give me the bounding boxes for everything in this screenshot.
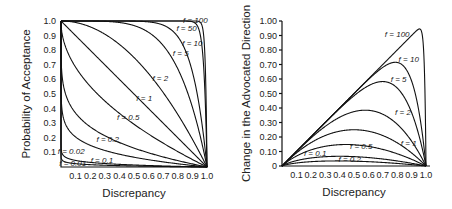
y-tick-label: 0.4	[43, 104, 56, 114]
curve-label: f = 100	[385, 30, 410, 39]
y-tick-label: 0.2	[43, 133, 56, 143]
x-tick-label: 0.4	[333, 170, 346, 180]
y-tick-label: 0.30	[259, 118, 277, 128]
x-axis-label: Discrepancy	[322, 186, 386, 198]
y-tick-label: 0.60	[259, 74, 277, 84]
curve-label: f = 0.01	[59, 159, 86, 168]
x-tick-label: 0.4	[113, 171, 126, 181]
y-tick-label: 0.9	[43, 31, 56, 41]
curve-label: f = 2	[395, 108, 411, 117]
x-tick-label: 0.5	[128, 171, 141, 181]
y-tick-label: 1.00	[259, 16, 277, 26]
curve-label: f = 10	[399, 55, 420, 64]
x-tick-label: 1.0	[420, 170, 433, 180]
x-tick-label: 1.0	[201, 171, 214, 181]
curve-label: f = 0.1	[304, 149, 326, 158]
x-tick-label: 0.5	[348, 170, 361, 180]
curve-label: f = 5	[391, 75, 407, 84]
curve-label: f = 0.2	[338, 155, 361, 164]
y-tick-label: 0.90	[259, 31, 277, 41]
y-tick-label: 0.6	[43, 74, 56, 84]
x-axis-label: Discrepancy	[102, 187, 166, 199]
y-tick-label: 0.8	[43, 45, 56, 55]
x-tick-label: 0.1	[69, 171, 82, 181]
y-tick-label: 0.70	[259, 60, 277, 70]
x-tick-label: 0.2	[305, 170, 318, 180]
curve-label: f = 1	[401, 139, 417, 148]
curve-label: f = 0.5	[350, 142, 373, 151]
x-tick-label: 0.9	[186, 171, 199, 181]
x-tick-label: 0.3	[319, 170, 332, 180]
x-tick-label: 0.7	[377, 170, 390, 180]
y-tick-label: 0.10	[259, 147, 277, 157]
x-tick-label: 0.6	[142, 171, 155, 181]
x-tick-label: 0.1	[290, 170, 303, 180]
y-tick-label: 1.0	[43, 16, 56, 26]
figure: 0.10.20.30.40.50.60.70.80.91.00.10.20.30…	[0, 0, 452, 209]
x-tick-label: 0.2	[84, 171, 97, 181]
y-tick-label: 0.40	[259, 103, 277, 113]
curve-label: f = 0.02	[58, 147, 85, 156]
x-tick-label: 0.8	[391, 170, 404, 180]
y-tick-label: 0.50	[259, 89, 277, 99]
curve-label: f = 0.2	[96, 135, 119, 144]
y-tick-label: 0.20	[259, 132, 277, 142]
curve-label: f = 10	[182, 39, 203, 48]
curve-label: f = 0.5	[117, 113, 140, 122]
y-tick-label: 0	[272, 161, 277, 171]
curve-label: f = 2	[152, 74, 168, 83]
y-tick-label: 0.3	[43, 118, 56, 128]
x-tick-label: 0.7	[157, 171, 170, 181]
x-tick-label: 0.3	[99, 171, 112, 181]
y-tick-label: 0.1	[43, 147, 56, 157]
change-chart: 00.100.200.300.400.500.600.700.800.901.0…	[240, 5, 432, 198]
y-tick-label: 0.5	[43, 89, 56, 99]
x-tick-label: 0.6	[362, 170, 375, 180]
curve-label: f = 1	[136, 94, 152, 103]
y-tick-label: 0.80	[259, 45, 277, 55]
x-tick-label: 0.9	[405, 170, 418, 180]
y-tick-label: 0.7	[43, 60, 56, 70]
acceptance-chart: 0.10.20.30.40.50.60.70.80.91.00.10.20.30…	[20, 16, 213, 199]
curve-label: f = 50	[176, 24, 197, 33]
curve-label: f = 5	[173, 49, 189, 58]
x-tick-label: 0.8	[172, 171, 185, 181]
y-axis-label: Change in the Advocated Direction	[240, 5, 252, 182]
y-axis-label: Probability of Acceptance	[20, 29, 32, 158]
